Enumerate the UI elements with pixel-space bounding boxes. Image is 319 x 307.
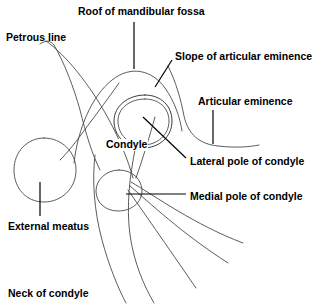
label-articular-eminence: Articular eminence xyxy=(198,96,293,108)
petrous-line-lower-path xyxy=(54,45,100,170)
label-roof-of-mandibular-fossa: Roof of mandibular fossa xyxy=(78,6,205,18)
label-lateral-pole-of-condyle: Lateral pole of condyle xyxy=(190,156,304,168)
anatomy-line-drawing xyxy=(0,0,319,307)
ramus-line-3-path xyxy=(128,190,196,288)
label-neck-of-condyle: Neck of condyle xyxy=(8,288,89,300)
anatomy-diagram: Petrous line Roof of mandibular fossa Sl… xyxy=(0,0,319,307)
condylar-neck-left-path xyxy=(94,155,126,303)
condylar-neck-right-path xyxy=(128,150,154,303)
label-condyle: Condyle xyxy=(105,139,148,151)
label-medial-pole-of-condyle: Medial pole of condyle xyxy=(190,191,303,203)
label-petrous-line: Petrous line xyxy=(6,32,66,44)
label-external-meatus: External meatus xyxy=(8,221,89,233)
slope-of-articular-eminence-leader xyxy=(155,60,172,87)
label-slope-of-articular-eminence: Slope of articular eminence xyxy=(175,51,312,63)
external-meatus-circle-path xyxy=(14,138,76,202)
